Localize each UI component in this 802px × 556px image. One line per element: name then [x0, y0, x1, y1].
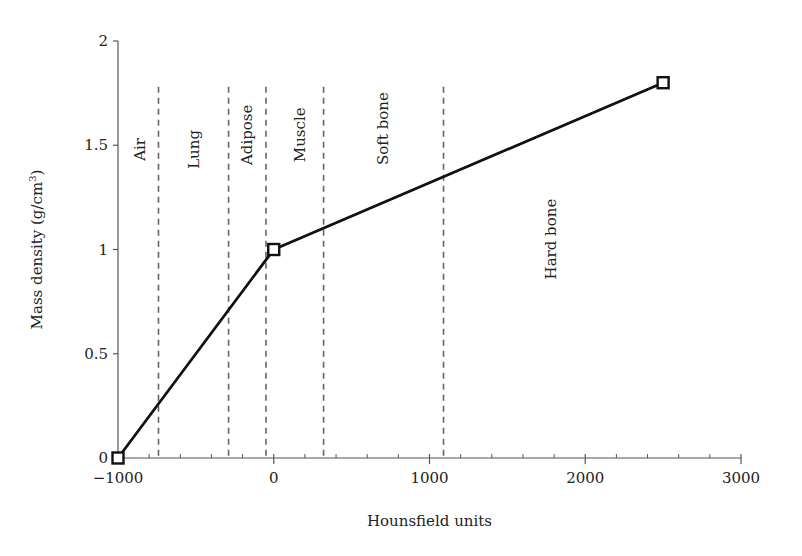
chart-canvas: 00.511.52−10000100020003000 AirLungAdipo… — [0, 0, 802, 556]
axes: 00.511.52−10000100020003000 — [84, 32, 760, 487]
region-label: Muscle — [291, 107, 309, 162]
region-label: Adipose — [238, 104, 256, 166]
region-label: Soft bone — [374, 92, 392, 165]
region-label: Lung — [185, 130, 203, 169]
x-tick-label: 1000 — [410, 469, 448, 487]
x-tick-label: 0 — [269, 469, 279, 487]
y-axis-title: Mass density (g/cm3) — [27, 170, 46, 330]
x-tick-label: 3000 — [722, 469, 760, 487]
data-point-marker — [113, 453, 124, 464]
y-tick-label: 1.5 — [84, 136, 108, 154]
y-tick-label: 1 — [98, 241, 108, 259]
region-label: Hard bone — [542, 199, 560, 280]
region-label: Air — [131, 137, 149, 162]
x-axis-title: Hounsfield units — [367, 512, 492, 530]
x-tick-label: −1000 — [93, 469, 144, 487]
y-tick-label: 0.5 — [84, 345, 108, 363]
y-tick-label: 2 — [98, 32, 108, 50]
x-tick-label: 2000 — [566, 469, 604, 487]
data-point-marker — [268, 244, 279, 255]
data-point-marker — [658, 77, 669, 88]
y-tick-label: 0 — [98, 449, 108, 467]
region-labels: AirLungAdiposeMuscleSoft boneHard bone — [131, 92, 560, 279]
